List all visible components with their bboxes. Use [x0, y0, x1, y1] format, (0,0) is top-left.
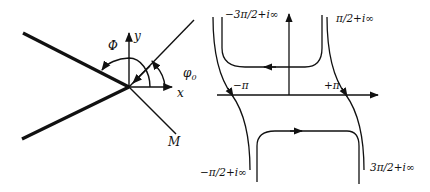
- phi-cap-label: Φ: [108, 39, 118, 53]
- upper-contour: [222, 15, 322, 67]
- line-m: [129, 87, 176, 134]
- thick-lower-boundary: [22, 87, 129, 139]
- plus-pi-label: +π: [324, 79, 341, 91]
- wedge-diagram: Φ y φ0 x M: [22, 20, 197, 149]
- phi0-label: φ0: [183, 66, 197, 82]
- contour-diagram: −3π/2+i∞ π/2+i∞ −π +π −π/2+i∞ 3π/2+i∞: [200, 8, 415, 184]
- lower-contour: [257, 131, 359, 184]
- bottom-left-label: −π/2+i∞: [200, 166, 247, 178]
- y-label: y: [133, 29, 141, 43]
- m-label: M: [167, 135, 181, 149]
- figure: Φ y φ0 x M −3π/2+i∞ π/2+i∞ −π +π −π/2+i∞…: [0, 0, 430, 192]
- bottom-right-label: 3π/2+i∞: [370, 161, 415, 173]
- phi0-arc: [152, 61, 165, 87]
- top-right-label: π/2+i∞: [335, 12, 374, 24]
- phi0-subscript: 0: [191, 73, 196, 82]
- x-label: x: [177, 86, 184, 100]
- top-left-label: −3π/2+i∞: [225, 8, 279, 20]
- minus-pi-label: −π: [233, 79, 250, 91]
